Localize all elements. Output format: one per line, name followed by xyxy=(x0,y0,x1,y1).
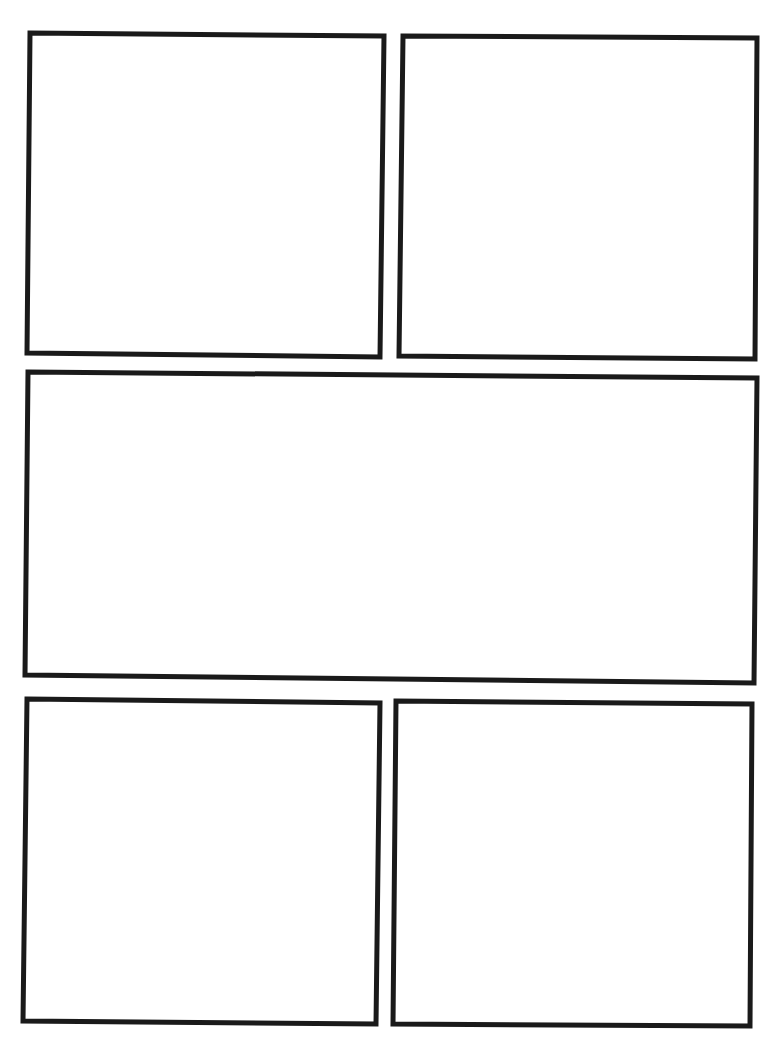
panel-4 xyxy=(23,699,380,1024)
panel-1 xyxy=(27,33,384,357)
panel-2 xyxy=(399,36,757,359)
panel-3 xyxy=(25,372,757,683)
comic-page xyxy=(0,0,767,1058)
panel-5 xyxy=(393,701,752,1026)
